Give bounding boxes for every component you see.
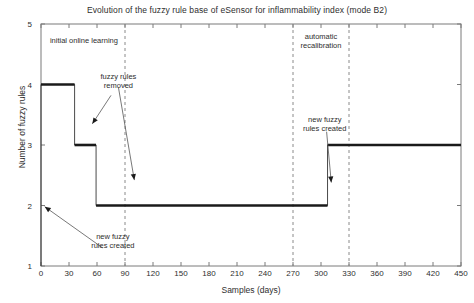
x-tick-label-420: 420 <box>426 269 439 278</box>
x-tick-label-300: 300 <box>314 269 327 278</box>
fuzzy-rules-removed-2-arrowhead <box>131 174 136 180</box>
x-tick-label-60: 60 <box>93 269 102 278</box>
x-tick-label-240: 240 <box>258 269 271 278</box>
y-tick-label-2: 2 <box>28 201 32 210</box>
annotation-fuzzy-rules-removed: fuzzy rules removed <box>101 71 137 90</box>
x-tick-label-0: 0 <box>39 269 43 278</box>
fuzzy-rules-removed-arrowhead <box>92 117 97 123</box>
x-tick-label-120: 120 <box>146 269 159 278</box>
x-tick-label-90: 90 <box>121 269 130 278</box>
y-tick-label-5: 5 <box>28 20 32 29</box>
x-tick-label-360: 360 <box>370 269 383 278</box>
x-tick-label-390: 390 <box>398 269 411 278</box>
annotation-automatic-recalibration: automatic recalibration <box>301 31 342 50</box>
annotation-initial-online-learning: initial online learning <box>50 36 118 46</box>
annotation-new-fuzzy-rules-created-right: new fuzzy rules created <box>303 114 346 133</box>
y-tick-label-1: 1 <box>28 262 32 271</box>
new-rules-right-arrowhead <box>328 176 333 182</box>
fuzzy-rules-removed-2-leader <box>118 88 134 181</box>
annotation-new-fuzzy-rules-created-left: new fuzzy rules created <box>91 231 134 250</box>
x-tick-label-330: 330 <box>342 269 355 278</box>
figure-container: Evolution of the fuzzy rule base of eSen… <box>0 0 474 303</box>
y-tick-label-3: 3 <box>28 141 32 150</box>
x-tick-label-210: 210 <box>230 269 243 278</box>
x-tick-label-180: 180 <box>202 269 215 278</box>
y-tick-label-4: 4 <box>28 80 32 89</box>
x-tick-label-150: 150 <box>174 269 187 278</box>
new-rules-left-arrowhead <box>45 207 51 213</box>
x-tick-label-270: 270 <box>286 269 299 278</box>
x-tick-label-30: 30 <box>65 269 74 278</box>
x-tick-label-450: 450 <box>454 269 467 278</box>
